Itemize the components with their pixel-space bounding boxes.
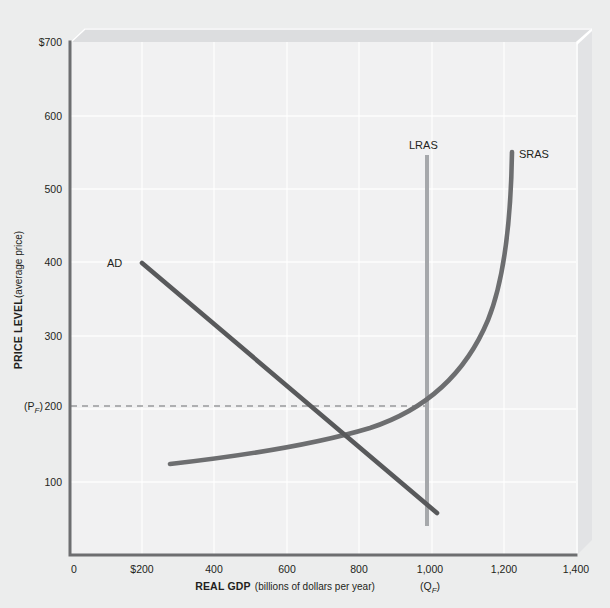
x-tick-1000: 1,000 (417, 563, 443, 575)
y-tick-400: 400 (44, 256, 62, 268)
svg-text:(PF): (PF) (24, 400, 43, 415)
x-axis-title-sub: (billions of dollars per year) (255, 581, 375, 592)
qf-annotation: (QF) (420, 580, 440, 595)
origin-tick-0: 0 (71, 563, 77, 575)
svg-text:(QF): (QF) (420, 580, 440, 595)
svg-text:PRICE LEVEL(average price): PRICE LEVEL(average price) (12, 231, 24, 369)
x-tick-600: 600 (278, 563, 296, 575)
y-tick-100: 100 (44, 476, 62, 488)
x-axis-title-group: REAL GDP(billions of dollars per year) (195, 580, 375, 592)
y-axis-title: PRICE LEVEL (12, 298, 24, 369)
pf-suffix: ) (39, 400, 43, 412)
x-tick-400: 400 (205, 563, 223, 575)
ad-curve-label: AD (107, 257, 122, 269)
y-tick-300: 300 (44, 330, 62, 342)
aggregate-supply-demand-chart: AD LRAS SRAS $700 600 500 400 300 200 10… (0, 0, 610, 608)
y-tick-700: $700 (39, 36, 63, 48)
y-axis-title-group: PRICE LEVEL(average price) (12, 231, 24, 369)
x-tick-800: 800 (350, 563, 368, 575)
y-axis-title-sub: (average price) (13, 231, 24, 298)
y-tick-200: 200 (44, 400, 62, 412)
y-tick-600: 600 (44, 110, 62, 122)
plot-background (70, 42, 576, 555)
pf-prefix: (P (24, 400, 35, 412)
chart-svg: AD LRAS SRAS $700 600 500 400 300 200 10… (0, 0, 610, 608)
x-axis-title: REAL GDP (195, 580, 251, 592)
pf-annotation: (PF) (24, 400, 43, 415)
x-tick-1200: 1,200 (491, 563, 517, 575)
qf-prefix: (Q (420, 580, 432, 592)
qf-suffix: ) (437, 580, 441, 592)
y-tick-500: 500 (44, 183, 62, 195)
x-axis-tick-labels: $200 400 600 800 1,000 1,200 1,400 (130, 563, 589, 575)
x-tick-1400: 1,400 (563, 563, 589, 575)
sras-curve-label: SRAS (519, 148, 549, 160)
lras-curve-label: LRAS (409, 139, 438, 151)
x-tick-200: $200 (130, 563, 154, 575)
